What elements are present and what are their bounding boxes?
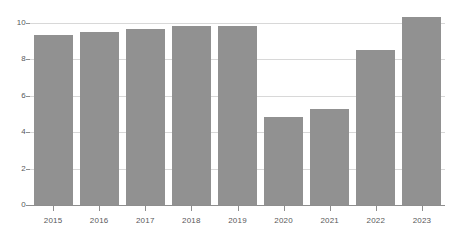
y-axis-tick-labels: 0246810 (0, 10, 26, 206)
bar-2023 (402, 17, 441, 205)
x-tick-mark-2018 (191, 206, 192, 211)
x-tick-mark-2019 (238, 206, 239, 211)
x-tick-mark-2020 (284, 206, 285, 211)
x-tick-mark-2023 (422, 206, 423, 211)
bar-2018 (172, 26, 211, 206)
x-tick-mark-2022 (376, 206, 377, 211)
x-tick-mark-2021 (330, 206, 331, 211)
y-tick-label-2: 2 (6, 165, 26, 173)
bar-2022 (356, 50, 395, 205)
bar-2015 (34, 35, 73, 205)
y-tick-label-4: 4 (6, 128, 26, 136)
bars-layer (30, 10, 445, 206)
bar-2016 (80, 32, 119, 205)
x-tick-label-2017: 2017 (136, 216, 155, 225)
y-tick-label-10: 10 (6, 19, 26, 27)
bar-2020 (264, 117, 303, 205)
y-tick-label-8: 8 (6, 55, 26, 63)
x-axis: 201520162017201820192020202120222023 (30, 206, 445, 241)
bar-2017 (126, 29, 165, 205)
x-tick-label-2020: 2020 (274, 216, 293, 225)
x-tick-mark-2015 (53, 206, 54, 211)
x-tick-label-2016: 2016 (90, 216, 109, 225)
x-tick-label-2022: 2022 (367, 216, 386, 225)
bar-2021 (310, 109, 349, 205)
x-tick-label-2023: 2023 (413, 216, 432, 225)
x-tick-label-2019: 2019 (228, 216, 247, 225)
bar-2019 (218, 26, 257, 206)
y-tick-label-6: 6 (6, 92, 26, 100)
x-tick-mark-2016 (99, 206, 100, 211)
y-tick-label-0: 0 (6, 201, 26, 209)
bar-chart: 0246810 20152016201720182019202020212022… (0, 0, 459, 241)
x-tick-mark-2017 (145, 206, 146, 211)
x-tick-label-2015: 2015 (44, 216, 63, 225)
x-tick-label-2018: 2018 (182, 216, 201, 225)
x-tick-label-2021: 2021 (320, 216, 339, 225)
